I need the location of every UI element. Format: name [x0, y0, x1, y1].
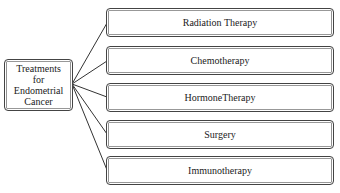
- root-label-line: Endometrial: [14, 85, 63, 96]
- node-label: Chemotherapy: [191, 55, 250, 66]
- root-label-line: Cancer: [14, 96, 63, 107]
- node-immunotherapy: Immunotherapy: [106, 156, 334, 185]
- node-label: Radiation Therapy: [183, 17, 258, 28]
- node-label: Immunotherapy: [188, 165, 252, 176]
- root-label-line: for: [14, 74, 63, 85]
- node-surgery: Surgery: [106, 120, 334, 149]
- node-chemotherapy: Chemotherapy: [106, 46, 334, 75]
- node-label: HormoneTherapy: [184, 92, 255, 103]
- root-node-treatments: Treatments for Endometrial Cancer: [4, 59, 73, 111]
- node-radiation-therapy: Radiation Therapy: [106, 8, 334, 37]
- node-hormone-therapy: HormoneTherapy: [106, 83, 334, 112]
- node-label: Surgery: [204, 129, 235, 140]
- root-label-line: Treatments: [14, 63, 63, 74]
